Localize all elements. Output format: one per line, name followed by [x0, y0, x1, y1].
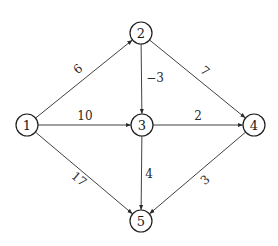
edge-4-to-5 — [150, 132, 246, 213]
edge-weight-3-4: 2 — [194, 109, 202, 123]
node-label: 3 — [138, 118, 146, 133]
node-3: 3 — [131, 114, 153, 136]
node-label: 1 — [23, 118, 31, 133]
edge-2-to-4 — [150, 40, 246, 118]
edge-weight-3-5: 4 — [145, 167, 153, 181]
node-2: 2 — [130, 22, 152, 44]
edge-weight-1-3: 10 — [77, 109, 92, 123]
node-1: 1 — [16, 114, 38, 136]
nodes-layer: 12345 — [16, 22, 265, 232]
node-label: 2 — [137, 26, 145, 41]
edge-weight-1-2: 6 — [71, 61, 86, 77]
node-label: 5 — [137, 214, 145, 229]
edge-2-to-3 — [141, 44, 142, 114]
node-label: 4 — [250, 118, 258, 133]
edge-weight-2-3: −3 — [146, 71, 164, 85]
graph-diagram: 61017−37243 12345 — [0, 0, 278, 246]
edge-weight-1-5: 17 — [69, 169, 90, 190]
edge-3-to-5 — [141, 136, 142, 210]
edge-1-to-2 — [36, 40, 132, 118]
edge-weight-4-5: 3 — [198, 172, 213, 188]
node-5: 5 — [130, 210, 152, 232]
edge-weight-2-4: 7 — [198, 63, 213, 79]
node-4: 4 — [243, 114, 265, 136]
